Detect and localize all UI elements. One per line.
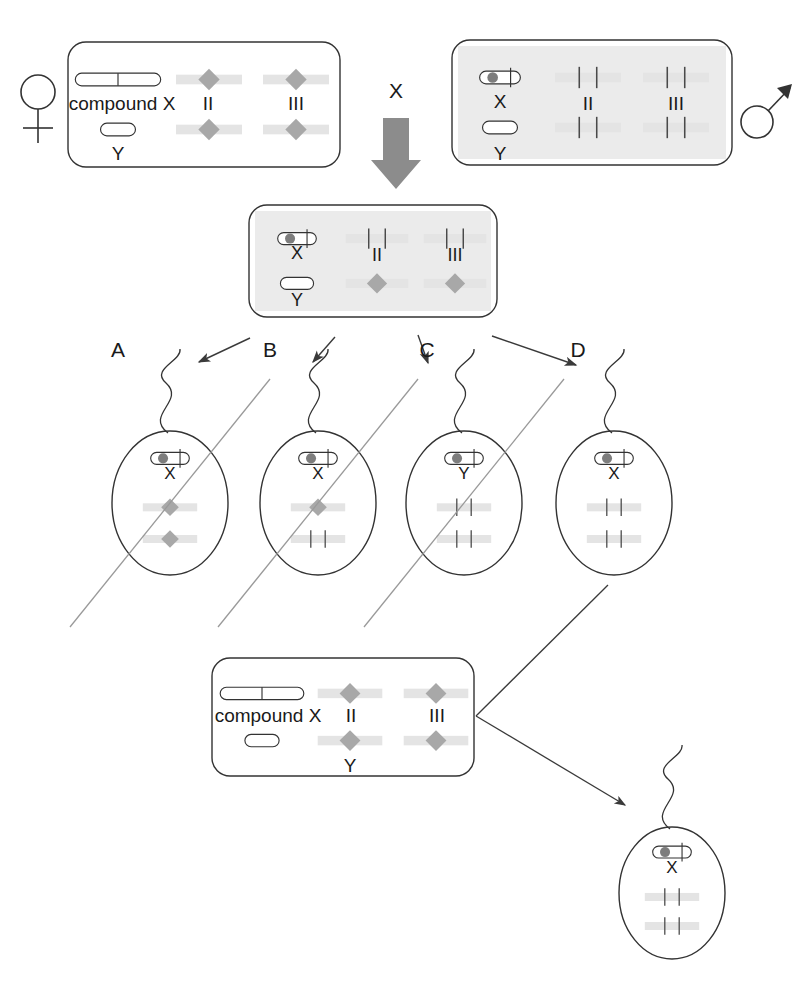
female-chr2-label: II xyxy=(203,93,214,114)
chromosome-body xyxy=(299,452,338,464)
tester-chr2-label: II xyxy=(346,705,357,726)
female-symbol xyxy=(21,75,55,143)
chromosome-band xyxy=(587,503,641,511)
diamond-marker xyxy=(309,499,327,517)
sperm-cell-b[interactable]: X xyxy=(260,349,376,575)
autosome-ticks xyxy=(645,917,699,935)
flagellum xyxy=(662,745,682,829)
female-symbol-circle xyxy=(21,75,55,109)
centromere-dot xyxy=(660,847,670,857)
chromosome-band xyxy=(645,922,699,930)
diamond-marker xyxy=(161,499,179,517)
diamond-marker xyxy=(285,69,306,90)
autosome-diamond xyxy=(143,530,197,548)
male-x-label: X xyxy=(494,91,507,112)
diamond-marker xyxy=(340,730,361,751)
sperm-label: D xyxy=(570,338,585,361)
chromosome-band xyxy=(643,123,709,133)
male-chr2-label: II xyxy=(583,93,594,114)
compound-x-chromosome-glyph xyxy=(75,73,160,86)
chromosome-band xyxy=(643,73,709,83)
resulting-zygote-cell[interactable]: X xyxy=(619,745,725,959)
chromosome-band xyxy=(346,234,409,243)
chromosome-body xyxy=(280,277,313,289)
chromosome-body xyxy=(245,734,279,746)
chromosome-body xyxy=(480,71,521,84)
f1-chr3-label: III xyxy=(447,245,462,265)
chromosome-band xyxy=(437,503,491,511)
chromosome-band xyxy=(291,535,345,543)
male-chr3-label: III xyxy=(668,93,684,114)
diamond-marker xyxy=(340,683,361,704)
chromosome-body xyxy=(101,123,136,136)
autosome-diamond xyxy=(291,499,345,517)
y-chromosome-glyph xyxy=(483,121,518,134)
sperm-sex-chromosome-label: X xyxy=(666,858,677,877)
sperm-label: C xyxy=(419,338,434,361)
diagram-canvas: XXYXX compound X IIIIIYXIIIIIYXIIIIIYcom… xyxy=(0,0,807,1000)
chromosome-body xyxy=(653,846,692,858)
strikethrough-line xyxy=(364,379,564,627)
tester-chr3-label: III xyxy=(429,705,445,726)
autosome-ticks xyxy=(645,888,699,906)
centromere-dot xyxy=(306,453,316,463)
autosome-diamond xyxy=(318,730,383,751)
male-y-label: Y xyxy=(494,143,507,164)
diamond-marker xyxy=(198,119,219,140)
autosome-diamond xyxy=(263,119,329,140)
autosome-diamond xyxy=(263,69,329,90)
diamond-marker xyxy=(285,119,306,140)
diamond-marker xyxy=(198,69,219,90)
diamond-marker xyxy=(161,530,179,548)
sperm-sex-chromosome-label: X xyxy=(164,464,175,483)
chromosome-band xyxy=(555,73,621,83)
meiosis-arrow-A xyxy=(199,338,250,362)
autosome-diamond xyxy=(404,683,469,704)
sperm-d-to-cross-line xyxy=(476,585,608,716)
cross-symbol-label: X xyxy=(389,79,403,102)
tester-compound-x-label: compound X xyxy=(215,705,322,726)
sperm-sex-chromosome-label: X xyxy=(312,464,323,483)
cross-to-zygote-arrow xyxy=(476,716,625,805)
sperm-cell-d[interactable]: X xyxy=(556,349,672,575)
flagellum xyxy=(604,349,624,433)
autosome-ticks xyxy=(587,499,641,517)
chromosome-band xyxy=(645,893,699,901)
sperm-cell-c[interactable]: Y xyxy=(406,349,522,575)
chromosome-body xyxy=(595,452,634,464)
y-chromosome-glyph xyxy=(245,734,279,746)
sperm-cell-a[interactable]: X xyxy=(112,349,228,575)
sperm-label: A xyxy=(111,338,125,361)
autosome-ticks xyxy=(587,530,641,548)
sperm-label: B xyxy=(263,338,277,361)
meiosis-arrow-D xyxy=(492,336,576,365)
male-symbol-arrowhead xyxy=(777,84,792,99)
diamond-marker xyxy=(426,730,447,751)
f1-x-label: X xyxy=(291,243,303,263)
centromere-dot xyxy=(602,453,612,463)
autosome-ticks xyxy=(437,530,491,548)
chromosome-band xyxy=(587,535,641,543)
cross-direction-arrow xyxy=(371,118,421,189)
compound-x-chromosome-glyph xyxy=(220,687,304,699)
flagellum xyxy=(308,349,328,433)
y-chromosome-glyph xyxy=(280,277,313,289)
strikethrough-line xyxy=(70,379,270,627)
y-chromosome-glyph xyxy=(101,123,136,136)
female-chr3-label: III xyxy=(288,93,304,114)
flagellum xyxy=(160,349,180,433)
tester-y-label: Y xyxy=(344,755,357,776)
autosome-diamond xyxy=(404,730,469,751)
chromosome-band xyxy=(437,535,491,543)
autosome-diamond xyxy=(176,119,242,140)
centromere-dot xyxy=(487,72,498,83)
autosome-ticks xyxy=(291,530,345,548)
sperm-sex-chromosome-label: X xyxy=(608,464,619,483)
strikethrough-line xyxy=(218,379,418,627)
female-compound-x-label: compound X xyxy=(69,93,176,114)
genetics-cross-svg: XXYXX compound X IIIIIYXIIIIIYXIIIIIYcom… xyxy=(0,0,807,1000)
centromere-dot xyxy=(158,453,168,463)
autosome-diamond xyxy=(143,499,197,517)
f1-chr2-label: II xyxy=(372,245,382,265)
centromere-dot xyxy=(452,453,462,463)
